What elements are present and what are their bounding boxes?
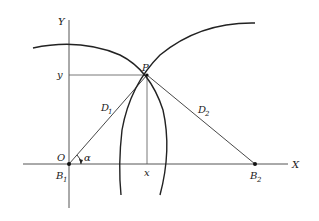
distance-d1-label: D 1 [100,102,112,116]
origin-point [67,162,71,166]
angle-arrow-icon [79,159,83,164]
svg-text:2: 2 [256,176,262,184]
origin-b1-label: B 1 [55,170,67,184]
beacon-b2-point [253,162,257,166]
y-axis-label: Y [58,16,66,27]
trilateration-diagram: Y X P y x O α B 1 B 2 D 1 D 2 [0,0,319,221]
distance-d2-label: D 2 [197,104,210,118]
beacon-b2-label: B 2 [249,170,262,184]
point-p [145,73,148,76]
x-coord-label: x [144,167,150,178]
origin-label: O [57,152,65,163]
arc-around-b1 [120,23,255,195]
point-p-label: P [141,62,149,73]
angle-alpha-label: α [84,152,91,163]
y-coord-label: y [56,69,63,80]
svg-text:1: 1 [63,176,67,184]
svg-text:2: 2 [204,110,210,118]
distance-d2-line [147,75,255,164]
x-axis-label: X [291,159,300,170]
svg-text:1: 1 [108,108,112,116]
